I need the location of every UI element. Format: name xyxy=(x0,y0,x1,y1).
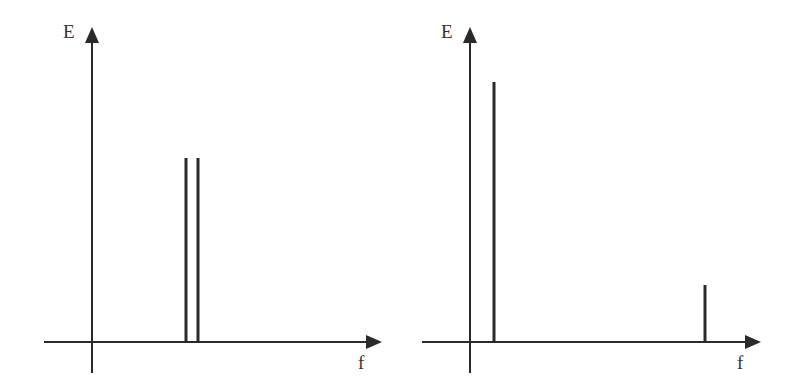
x-axis-arrow-icon xyxy=(745,335,761,349)
x-axis-arrow-icon xyxy=(366,335,382,349)
diagram-left: E f xyxy=(44,21,382,373)
x-axis-label: f xyxy=(737,352,744,373)
y-axis-label: E xyxy=(63,21,75,42)
x-axis-label: f xyxy=(358,352,365,373)
spectrum-diagrams: E f E f xyxy=(0,0,792,388)
diagram-right: E f xyxy=(422,21,761,373)
y-axis-arrow-icon xyxy=(85,27,99,43)
spectral-lines xyxy=(186,158,198,342)
y-axis-arrow-icon xyxy=(463,27,477,43)
spectral-lines xyxy=(494,82,705,342)
y-axis-label: E xyxy=(441,21,453,42)
